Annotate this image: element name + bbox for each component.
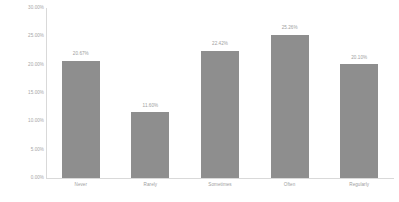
- y-axis-tick-label: 30.00%: [4, 6, 44, 11]
- x-axis-category-label: Regularly: [349, 183, 369, 188]
- bar[interactable]: [340, 64, 378, 178]
- bar-value-label: 22.42%: [212, 42, 228, 47]
- x-axis-category-label: Sometimes: [208, 183, 231, 188]
- x-axis-category-label: Rarely: [144, 183, 158, 188]
- x-axis-line: [46, 178, 394, 179]
- bar-value-label: 11.60%: [143, 104, 159, 109]
- x-axis-category-label: Often: [284, 183, 296, 188]
- bar-value-label: 25.26%: [282, 26, 298, 31]
- bar-value-label: 20.67%: [73, 52, 89, 57]
- bar[interactable]: [271, 35, 309, 178]
- bar[interactable]: [201, 51, 239, 178]
- bar[interactable]: [131, 112, 169, 178]
- x-axis-category-labels: NeverRarelySometimesOftenRegularly: [46, 183, 394, 199]
- bar-group: 25.26%: [255, 8, 325, 178]
- bar-group: 22.42%: [185, 8, 255, 178]
- y-axis-tick-labels: 0.00%5.00%10.00%15.00%20.00%25.00%30.00%: [0, 0, 44, 202]
- y-axis-tick-label: 0.00%: [4, 176, 44, 181]
- bar-group: 11.60%: [116, 8, 186, 178]
- bar-value-label: 20.10%: [351, 56, 367, 61]
- y-axis-tick-label: 25.00%: [4, 34, 44, 39]
- y-axis-tick-label: 5.00%: [4, 147, 44, 152]
- y-axis-tick-label: 10.00%: [4, 119, 44, 124]
- bar-chart: 0.00%5.00%10.00%15.00%20.00%25.00%30.00%…: [0, 0, 399, 202]
- bar-group: 20.67%: [46, 8, 116, 178]
- y-axis-tick-label: 20.00%: [4, 62, 44, 67]
- bars-container: 20.67%11.60%22.42%25.26%20.10%: [46, 8, 394, 178]
- bar-group: 20.10%: [324, 8, 394, 178]
- y-axis-tick-label: 15.00%: [4, 91, 44, 96]
- bar[interactable]: [62, 61, 100, 178]
- x-axis-category-label: Never: [75, 183, 88, 188]
